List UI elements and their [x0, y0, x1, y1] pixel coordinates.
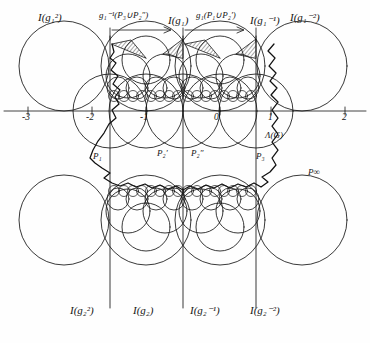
- label-I-g1-inverse: I(g₁⁻¹): [250, 15, 280, 26]
- axis-tick-label-two: 2: [342, 113, 347, 123]
- label-I-g2-inverse: I(g₂⁻¹): [190, 305, 220, 316]
- label-I-g1-inverse-squared: I(g₁⁻²): [290, 12, 320, 23]
- label-point-P2-prime: P₂′: [157, 149, 168, 158]
- label-leader-arrows: [110, 27, 256, 42]
- axis-tick-label-minus3: -3: [22, 113, 30, 123]
- label-g1inv-P3-union-P2dprime: g₁⁻¹(P₃∪P₂″): [99, 11, 148, 20]
- axis-tick-label-minus1: -1: [140, 113, 148, 123]
- label-point-P2-double-prime: P₂″: [191, 149, 203, 158]
- label-I-g1: I(g₁): [168, 15, 188, 26]
- label-limit-set-lambda-G: Λ(G): [265, 131, 283, 140]
- label-g1-P1-union-P2prime: g₁(P₁∪P₂′): [196, 11, 236, 20]
- limit-set-curve: [90, 44, 278, 190]
- axis-tick-label-zero: 0: [214, 113, 219, 123]
- label-I-g1-squared: I(g₁²): [38, 12, 62, 23]
- axis-tick-label-one: 1: [268, 113, 273, 123]
- label-point-P3: P₃: [256, 152, 265, 161]
- label-point-P-infinity: P∞: [308, 168, 320, 177]
- label-I-g2: I(g₂): [133, 305, 153, 316]
- label-point-P1: P₁: [93, 152, 102, 161]
- figure-canvas: I(g₁²) g₁⁻¹(P₃∪P₂″) I(g₁) g₁(P₁∪P₂′) I(g…: [0, 0, 370, 343]
- label-I-g2-inverse-squared: I(g₂⁻²): [250, 305, 280, 316]
- axis-tick-label-minus2: -2: [86, 113, 94, 123]
- label-I-g2-squared: I(g₂²): [70, 305, 94, 316]
